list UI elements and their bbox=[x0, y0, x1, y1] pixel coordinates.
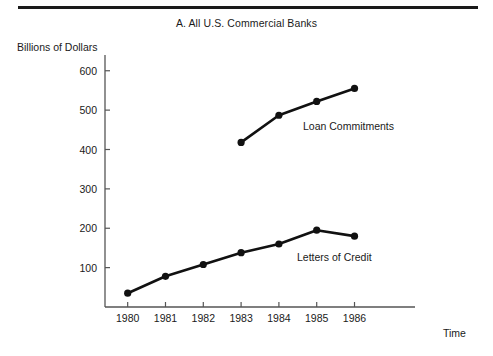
data-point-marker bbox=[238, 139, 245, 146]
series-line bbox=[241, 88, 354, 142]
x-axis-tick-labels: 1980198119821983198419851986 bbox=[116, 312, 366, 324]
series-markers bbox=[124, 85, 358, 297]
y-tick-label: 400 bbox=[79, 144, 97, 156]
series-label-letters-of-credit: Letters of Credit bbox=[297, 251, 372, 263]
x-tick-label: 1980 bbox=[116, 312, 140, 324]
data-point-marker bbox=[275, 240, 282, 247]
x-tick-label: 1983 bbox=[229, 312, 253, 324]
chart-page: A. All U.S. Commercial Banks Billions of… bbox=[0, 0, 493, 356]
data-point-marker bbox=[351, 85, 358, 92]
data-point-marker bbox=[238, 249, 245, 256]
y-tick-label: 300 bbox=[79, 183, 97, 195]
data-point-marker bbox=[275, 112, 282, 119]
data-point-marker bbox=[313, 227, 320, 234]
data-point-marker bbox=[313, 98, 320, 105]
y-tick-label: 500 bbox=[79, 104, 97, 116]
data-point-marker bbox=[124, 290, 131, 297]
x-axis-ticks bbox=[128, 302, 355, 307]
data-point-marker bbox=[200, 261, 207, 268]
data-point-marker bbox=[162, 273, 169, 280]
x-tick-label: 1986 bbox=[343, 312, 367, 324]
y-tick-label: 600 bbox=[79, 65, 97, 77]
x-tick-label: 1984 bbox=[267, 312, 291, 324]
x-tick-label: 1985 bbox=[305, 312, 329, 324]
data-point-marker bbox=[351, 233, 358, 240]
x-tick-label: 1981 bbox=[154, 312, 178, 324]
y-axis-tick-labels: 100200300400500600 bbox=[79, 65, 97, 274]
y-tick-label: 100 bbox=[79, 262, 97, 274]
chart-plot-area: 100200300400500600 198019811982198319841… bbox=[0, 0, 493, 356]
series-label-loan-commitments: Loan Commitments bbox=[303, 120, 394, 132]
x-tick-label: 1982 bbox=[192, 312, 216, 324]
y-tick-label: 200 bbox=[79, 222, 97, 234]
y-axis-ticks bbox=[105, 71, 110, 268]
